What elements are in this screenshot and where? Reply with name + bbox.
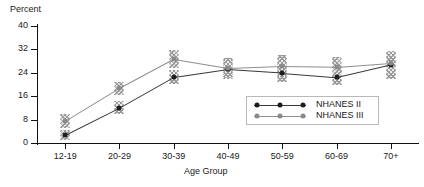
legend-marker [255,103,260,108]
x-axis-tick-label: 70+ [369,151,413,161]
x-axis-title: Age Group [184,166,228,176]
legend-marker [278,114,283,119]
legend-marker [278,103,283,108]
x-axis-tick-label: 50-59 [260,151,304,161]
y-axis-tick-label: 40 [6,20,28,30]
series-line-segment [119,59,174,89]
data-point [334,75,339,80]
series-line-segment [228,66,282,69]
y-axis-title: Percent [10,4,41,14]
legend-marker [255,114,260,119]
data-point [226,66,231,71]
legend: NHANES IINHANES III [246,96,379,125]
x-axis-tick-label: 12-19 [43,151,87,161]
y-axis-tick [31,120,37,121]
x-axis-tick-label: 60-69 [315,151,359,161]
x-axis-tick [65,144,66,149]
y-axis-tick-label: 24 [6,67,28,77]
legend-marker [301,114,306,119]
x-axis-line [33,143,419,144]
series-line-segment [65,108,120,136]
x-axis-tick [391,144,392,149]
series-line-segment [282,73,336,78]
data-point [171,57,176,62]
data-point [63,119,68,124]
data-point [117,86,122,91]
x-axis-tick [174,144,175,149]
y-axis-tick [31,143,37,144]
data-point [280,64,285,69]
plot-area [38,26,418,143]
legend-label: NHANES III [316,110,364,120]
y-axis-tick [31,26,37,27]
series-line-segment [65,88,120,122]
y-axis-tick-label: 32 [6,43,28,53]
data-point [63,133,68,138]
x-axis-tick [337,144,338,149]
data-point [280,70,285,75]
data-point [388,60,393,65]
data-point [171,75,176,80]
x-axis-tick-label: 20-29 [97,151,141,161]
y-axis-tick [31,49,37,50]
legend-label: NHANES II [316,99,361,109]
data-point [117,105,122,110]
y-axis-tick-label: 16 [6,90,28,100]
series-line-segment [174,59,228,69]
y-axis-tick [31,73,37,74]
series-line-segment [282,66,336,68]
x-axis-tick-label: 40-49 [206,151,250,161]
data-point [334,64,339,69]
chart-container: Percent Age Group 0816243240 12-1920-293… [0,0,424,187]
x-axis-tick [119,144,120,149]
legend-marker [301,103,306,108]
series-line-segment [228,69,282,74]
x-axis-tick [228,144,229,149]
y-axis-tick [31,96,37,97]
y-axis-tick-label: 0 [6,137,28,147]
x-axis-tick [282,144,283,149]
x-axis-tick-label: 30-39 [152,151,196,161]
series-line-segment [174,69,228,78]
y-axis-tick-label: 8 [6,114,28,124]
